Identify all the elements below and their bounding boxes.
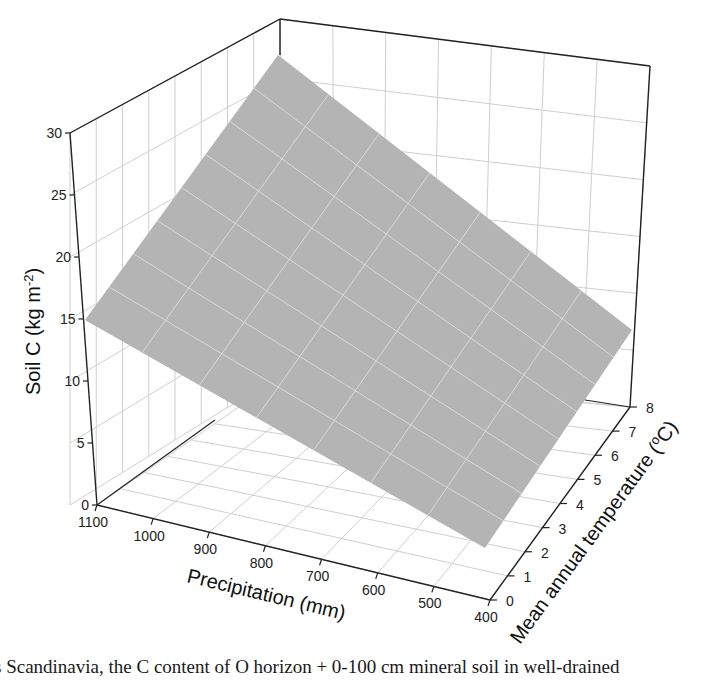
tick-label: 1000	[134, 528, 165, 544]
tick-label: 800	[250, 555, 274, 571]
tick-label: 0	[81, 497, 89, 513]
tick-label: 10	[64, 373, 80, 389]
tick-label: 4	[576, 497, 584, 513]
tick-label: 400	[474, 609, 498, 625]
tick-label: 30	[46, 125, 62, 141]
tick-label: 1	[524, 569, 532, 585]
soil-carbon-surface-chart: 0510152025301100100090080070060050040001…	[0, 0, 714, 685]
tick-label: 6	[611, 448, 619, 464]
tick-label: 2	[541, 545, 549, 561]
tick-label: 0	[506, 593, 514, 609]
tick-label: 900	[194, 541, 218, 557]
tick-label: 20	[55, 249, 71, 265]
z-axis-title: Soil C (kg m-2)	[21, 268, 44, 395]
tick-label: 5	[77, 435, 85, 451]
tick-label: 3	[559, 521, 567, 537]
figure-caption: s Scandinavia, the C content of O horizo…	[0, 656, 714, 678]
tick-label: 25	[51, 187, 67, 203]
tick-label: 5	[594, 472, 602, 488]
tick-label: 15	[60, 311, 76, 327]
tick-label: 600	[362, 582, 386, 598]
tick-label: 1100	[78, 514, 108, 530]
tick-label: 700	[306, 568, 330, 584]
tick-label: 8	[646, 400, 654, 416]
tick-label: 500	[418, 595, 442, 611]
tick-label: 7	[629, 424, 637, 440]
